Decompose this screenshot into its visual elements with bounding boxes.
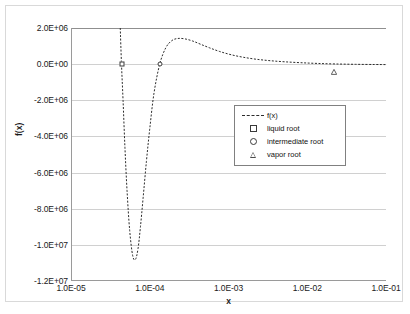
legend-item-fx: f(x) <box>240 109 341 122</box>
x-tick-label: 1.0E-02 <box>293 283 322 293</box>
triangle-marker-icon <box>240 152 266 158</box>
liquid-root-marker <box>119 62 124 67</box>
y-tick-label: 0.0E+00 <box>6 59 68 69</box>
legend-label: intermediate root <box>266 137 323 146</box>
circle-marker-icon <box>240 138 266 145</box>
y-tick-label: 2.0E+06 <box>6 23 68 33</box>
chart-legend: f(x) liquid root intermediate root vapor… <box>234 105 346 166</box>
y-tick-label: -8.0E+06 <box>6 204 68 214</box>
chart-frame: f(x) 2.0E+06 0.0E+00 -2.0E+06 -4.0E+06 -… <box>5 5 403 302</box>
x-tick-label: 1.0E-01 <box>371 283 400 293</box>
chart-screenshot: f(x) 2.0E+06 0.0E+00 -2.0E+06 -4.0E+06 -… <box>0 0 410 314</box>
x-axis-tick-labels: 1.0E-05 1.0E-04 1.0E-03 1.0E-02 1.0E-01 <box>71 283 386 297</box>
y-tick-label: -6.0E+06 <box>6 168 68 178</box>
legend-item-intermediate-root: intermediate root <box>240 135 341 148</box>
intermediate-root-marker <box>157 62 162 67</box>
x-tick-label: 1.0E-05 <box>56 283 85 293</box>
y-tick-label: -1.0E+07 <box>6 240 68 250</box>
square-marker-icon <box>240 125 266 132</box>
x-tick-label: 1.0E-03 <box>214 283 243 293</box>
x-tick-label: 1.0E-04 <box>135 283 164 293</box>
x-axis-title: x <box>71 296 386 306</box>
vapor-root-marker <box>331 61 337 67</box>
legend-label: liquid root <box>266 124 300 133</box>
y-axis-tick-labels: 2.0E+06 0.0E+00 -2.0E+06 -4.0E+06 -6.0E+… <box>6 28 68 281</box>
legend-item-vapor-root: vapor root <box>240 148 341 161</box>
legend-label: f(x) <box>266 111 278 120</box>
y-tick-label: -4.0E+06 <box>6 131 68 141</box>
legend-item-liquid-root: liquid root <box>240 122 341 135</box>
dashed-line-icon <box>240 115 266 116</box>
legend-label: vapor root <box>266 150 301 159</box>
y-tick-label: -2.0E+06 <box>6 95 68 105</box>
